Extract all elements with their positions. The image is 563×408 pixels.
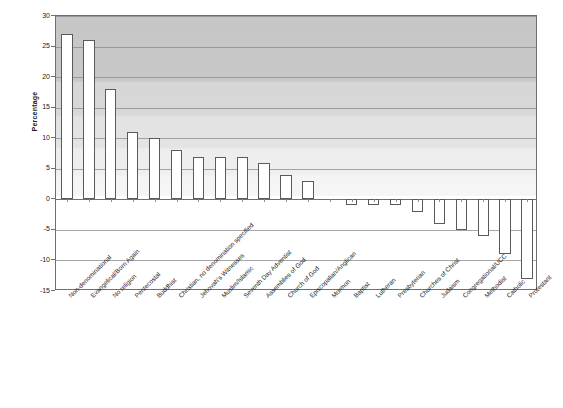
x-tick-mark bbox=[461, 199, 462, 202]
x-tick-mark bbox=[286, 199, 287, 202]
x-tick-mark bbox=[308, 199, 309, 202]
bar bbox=[456, 199, 467, 230]
gridline-30 bbox=[56, 16, 536, 17]
bar bbox=[215, 157, 226, 200]
y-tick-label: 10 bbox=[30, 134, 50, 141]
x-tick-mark bbox=[439, 199, 440, 202]
y-tick-mark bbox=[51, 290, 55, 291]
bar bbox=[105, 89, 116, 199]
bar bbox=[61, 34, 72, 199]
plot-area bbox=[55, 15, 537, 290]
x-tick-mark bbox=[483, 199, 484, 202]
x-tick-mark bbox=[111, 199, 112, 202]
x-tick-mark bbox=[330, 199, 331, 202]
bar bbox=[83, 40, 94, 199]
x-tick-mark bbox=[264, 199, 265, 202]
y-tick-label: 15 bbox=[30, 103, 50, 110]
bar bbox=[302, 181, 313, 199]
bar bbox=[149, 138, 160, 199]
x-tick-mark bbox=[177, 199, 178, 202]
x-tick-mark bbox=[242, 199, 243, 202]
bar bbox=[127, 132, 138, 199]
x-tick-mark bbox=[89, 199, 90, 202]
y-tick-label: -15 bbox=[30, 287, 50, 294]
bar bbox=[434, 199, 445, 223]
y-axis-title: Percentage bbox=[31, 82, 38, 142]
y-tick-label: -10 bbox=[30, 256, 50, 263]
gridline-15 bbox=[56, 108, 536, 109]
bar bbox=[258, 163, 269, 200]
x-tick-mark bbox=[155, 199, 156, 202]
y-tick-label: 20 bbox=[30, 73, 50, 80]
bar bbox=[171, 150, 182, 199]
gridline--5 bbox=[56, 230, 536, 231]
x-tick-mark bbox=[198, 199, 199, 202]
x-tick-mark bbox=[374, 199, 375, 202]
x-tick-mark bbox=[133, 199, 134, 202]
x-tick-mark bbox=[418, 199, 419, 202]
bar bbox=[521, 199, 532, 278]
x-tick-mark bbox=[505, 199, 506, 202]
y-tick-label: 30 bbox=[30, 12, 50, 19]
x-tick-mark bbox=[527, 199, 528, 202]
gridline-25 bbox=[56, 47, 536, 48]
x-tick-mark bbox=[352, 199, 353, 202]
y-tick-label: 0 bbox=[30, 195, 50, 202]
y-tick-label: 25 bbox=[30, 42, 50, 49]
gridline-20 bbox=[56, 77, 536, 78]
bar bbox=[478, 199, 489, 236]
bar bbox=[237, 157, 248, 200]
bar bbox=[193, 157, 204, 200]
x-tick-mark bbox=[67, 199, 68, 202]
bar bbox=[280, 175, 291, 199]
bar bbox=[499, 199, 510, 254]
y-tick-label: 5 bbox=[30, 164, 50, 171]
y-tick-label: -5 bbox=[30, 225, 50, 232]
x-tick-mark bbox=[220, 199, 221, 202]
x-tick-mark bbox=[396, 199, 397, 202]
bar-chart: Percentage 302520151050-5-10-15 Non-deno… bbox=[0, 0, 563, 408]
